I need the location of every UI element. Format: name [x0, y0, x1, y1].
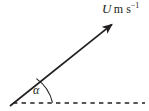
vector-unit: m s [114, 2, 131, 16]
vector-symbol: U [102, 1, 111, 16]
angle-label: α [33, 84, 39, 96]
vector-diagram-figure: U m s−1 α [0, 0, 149, 111]
vector-unit-exponent: −1 [131, 1, 140, 10]
vector-diagram-canvas [0, 0, 149, 111]
velocity-vector-arrow [10, 24, 112, 106]
vector-magnitude-label: U m s−1 [102, 2, 139, 16]
